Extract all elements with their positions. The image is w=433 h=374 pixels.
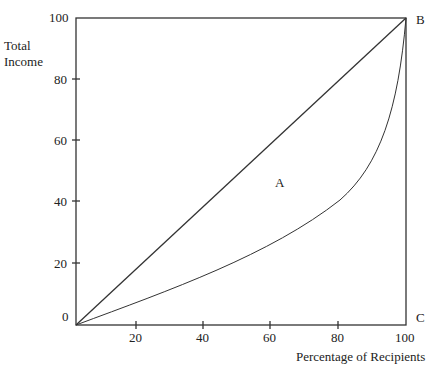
- y-tick-80: 80: [54, 72, 67, 87]
- area-label-a: A: [275, 175, 284, 190]
- x-tick-40: 40: [196, 330, 209, 345]
- x-axis-label: Percentage of Recipients: [296, 349, 425, 364]
- y-axis-label-line2: Income: [4, 54, 43, 69]
- point-label-c: C: [416, 310, 425, 325]
- y-tick-0: 0: [62, 309, 69, 324]
- x-tick-20: 20: [129, 330, 142, 345]
- point-label-b: B: [416, 12, 425, 27]
- y-tick-100: 100: [49, 10, 69, 25]
- y-axis-label-line1: Total: [4, 38, 31, 53]
- y-tick-60: 60: [54, 133, 67, 148]
- x-tick-60: 60: [263, 330, 276, 345]
- y-tick-40: 40: [54, 194, 67, 209]
- x-tick-100: 100: [395, 330, 415, 345]
- y-tick-20: 20: [54, 256, 67, 271]
- x-tick-80: 80: [331, 330, 344, 345]
- equality-line: [76, 18, 406, 325]
